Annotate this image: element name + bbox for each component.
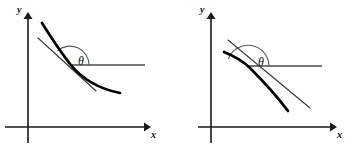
x-axis-label: x: [150, 129, 156, 140]
diagram-panel-right: x y θ: [178, 0, 356, 155]
angle-theta-label: θ: [78, 54, 84, 68]
angle-group-right: θ: [228, 45, 322, 69]
y-axis-label: y: [16, 4, 22, 15]
axes-group-right: x y: [198, 4, 342, 143]
y-axis-arrowhead: [207, 12, 216, 19]
tangent-line: [228, 40, 310, 108]
x-axis-arrowhead: [330, 123, 337, 132]
diagram-panel-left: x y θ: [0, 0, 178, 155]
figure-root: x y θ x y θ: [0, 0, 356, 155]
graph-group-right: [224, 40, 310, 111]
x-axis-arrowhead: [144, 123, 151, 132]
y-axis-label: y: [199, 4, 205, 15]
y-axis-arrowhead: [24, 12, 33, 19]
x-axis-label: x: [336, 129, 342, 140]
